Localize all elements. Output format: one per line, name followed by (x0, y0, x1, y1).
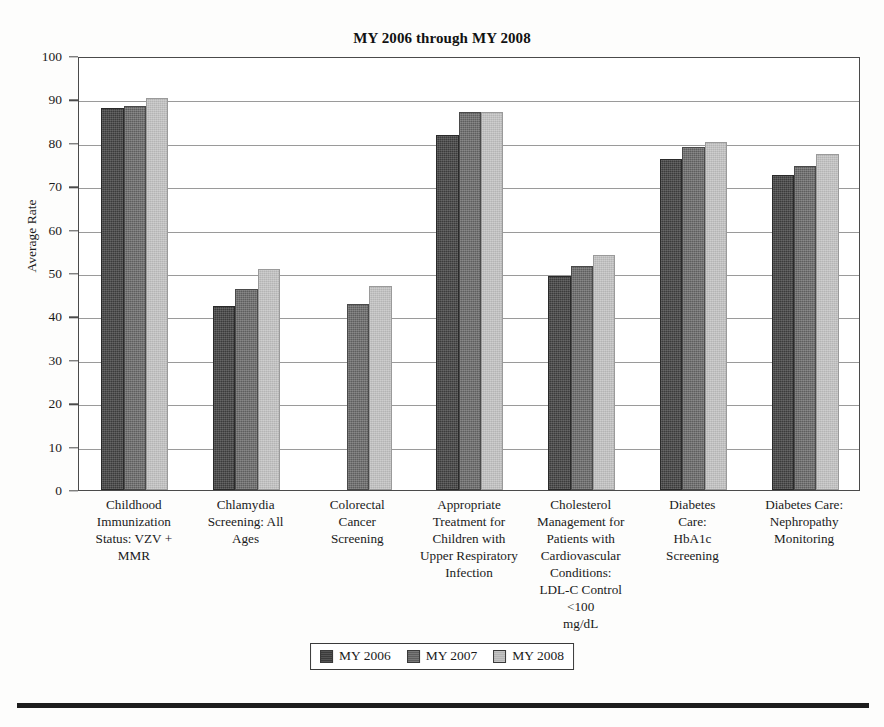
bar (213, 306, 235, 490)
y-tick-mark (69, 273, 78, 274)
x-axis-label-line: Nephropathy (749, 513, 858, 530)
y-tick-mark (69, 360, 78, 361)
legend-label: MY 2006 (339, 648, 391, 664)
legend-swatch-icon (407, 650, 420, 663)
bar (347, 304, 369, 490)
x-axis-label-line: Upper Respiratory (414, 547, 523, 564)
y-tick-mark (69, 317, 78, 318)
x-axis-label-line: Infection (414, 564, 523, 581)
x-axis-label-line: Children with (414, 530, 523, 547)
y-tick-mark (69, 56, 78, 57)
x-axis-label-line: Colorectal (303, 496, 412, 513)
y-tick-mark (69, 403, 78, 404)
legend-swatch-icon (493, 650, 506, 663)
x-axis-label-line: mg/dL (526, 615, 635, 632)
bar (772, 175, 794, 490)
plot-area (78, 57, 860, 491)
bar (235, 289, 257, 490)
legend-item[interactable]: MY 2007 (407, 648, 478, 664)
bar (146, 98, 168, 490)
x-axis-label-line: Screening (638, 547, 747, 564)
bar (258, 269, 280, 490)
y-tick-mark (69, 100, 78, 101)
legend-label: MY 2007 (426, 648, 478, 664)
x-axis-label-line: Cardiovascular (526, 547, 635, 564)
x-axis-label-line: Cancer (303, 513, 412, 530)
y-tick-label: 50 (49, 266, 63, 282)
bar (660, 159, 682, 490)
x-axis-category-labels: ChildhoodImmunizationStatus: VZV +MMRChl… (78, 496, 860, 626)
x-axis-label: AppropriateTreatment forChildren withUpp… (414, 496, 523, 581)
legend-item[interactable]: MY 2008 (493, 648, 564, 664)
y-tick-label: 20 (49, 396, 63, 412)
y-tick-label: 90 (49, 92, 63, 108)
x-axis-label-line: Ages (191, 530, 300, 547)
bar (571, 266, 593, 490)
x-axis-label-line: Screening: All (191, 513, 300, 530)
chart-legend: MY 2006MY 2007MY 2008 (310, 643, 574, 670)
x-axis-label: ColorectalCancerScreening (303, 496, 412, 547)
x-axis-label-line: Status: VZV + (79, 530, 188, 547)
x-axis-label-line: Patients with (526, 530, 635, 547)
bar (101, 108, 123, 490)
y-tick-label: 10 (49, 440, 63, 456)
x-axis-label-line: Diabetes (638, 496, 747, 513)
bar (816, 154, 838, 490)
bar (705, 142, 727, 490)
y-tick-label: 70 (49, 179, 63, 195)
x-axis-label-line: Screening (303, 530, 412, 547)
x-axis-label-line: Management for (526, 513, 635, 530)
bar (682, 147, 704, 490)
y-tick-label: 100 (42, 49, 62, 65)
x-axis-label-line: Treatment for (414, 513, 523, 530)
x-axis-label-line: Childhood (79, 496, 188, 513)
bar (481, 112, 503, 490)
y-tick-label: 60 (49, 223, 63, 239)
legend-item[interactable]: MY 2006 (320, 648, 391, 664)
x-axis-label-line: Chlamydia (191, 496, 300, 513)
y-tick-mark (69, 447, 78, 448)
x-axis-label-line: LDL-C Control <100 (526, 581, 635, 615)
legend-swatch-icon (320, 650, 333, 663)
x-axis-label: ChildhoodImmunizationStatus: VZV +MMR (79, 496, 188, 564)
y-tick-label: 30 (49, 353, 63, 369)
x-axis-label: ChlamydiaScreening: AllAges (191, 496, 300, 547)
y-tick-mark (69, 186, 78, 187)
bar (459, 112, 481, 490)
bar (369, 286, 391, 490)
x-axis-label-line: Care: (638, 513, 747, 530)
bar (548, 276, 570, 490)
chart-page: MY 2006 through MY 2008 Average Rate 100… (0, 0, 884, 727)
x-axis-label: CholesterolManagement forPatients withCa… (526, 496, 635, 632)
bar (436, 135, 458, 490)
bar (124, 106, 146, 490)
x-axis-label: DiabetesCare:HbA1cScreening (638, 496, 747, 564)
page-divider-rule (17, 703, 869, 708)
bars-layer (79, 58, 859, 490)
y-tick-mark (69, 490, 78, 491)
y-axis-ticks: 1009080706050403020100 (0, 57, 78, 491)
legend-label: MY 2008 (512, 648, 564, 664)
chart-title: MY 2006 through MY 2008 (0, 30, 884, 47)
y-tick-label: 80 (49, 136, 63, 152)
x-axis-label-line: HbA1c (638, 530, 747, 547)
x-axis-label-line: MMR (79, 547, 188, 564)
bar (593, 255, 615, 490)
y-tick-label: 40 (49, 309, 63, 325)
x-axis-label: Diabetes Care:NephropathyMonitoring (749, 496, 858, 547)
x-axis-label-line: Diabetes Care: (749, 496, 858, 513)
x-axis-label-line: Monitoring (749, 530, 858, 547)
x-axis-label-line: Conditions: (526, 564, 635, 581)
x-axis-label-line: Immunization (79, 513, 188, 530)
bar (794, 166, 816, 490)
x-axis-label-line: Appropriate (414, 496, 523, 513)
x-axis-label-line: Cholesterol (526, 496, 635, 513)
y-tick-mark (69, 143, 78, 144)
y-tick-label: 0 (55, 483, 62, 499)
y-tick-mark (69, 230, 78, 231)
